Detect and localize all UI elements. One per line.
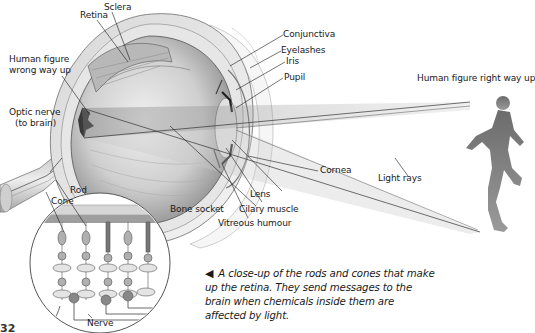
label-lens: Lens (250, 189, 270, 200)
label-bone-socket: Bone socket (170, 204, 224, 215)
label-human-figure-right: Human figure right way up (417, 73, 535, 84)
label-human-figure-wrong-line1: Human figure (9, 54, 69, 65)
label-cone: Cone (51, 196, 74, 207)
label-vitreous-humour: Vitreous humour (218, 218, 291, 229)
label-conjunctiva: Conjunctiva (283, 29, 335, 40)
running-figure (466, 96, 524, 232)
label-optic-nerve-line1: Optic nerve (9, 107, 60, 118)
label-retina: Retina (80, 10, 108, 21)
label-sclera: Sclera (104, 2, 131, 13)
label-optic-nerve-line2: (to brain) (15, 118, 56, 129)
figure-caption: ◀A close-up of the rods and cones that m… (205, 267, 435, 323)
label-human-figure-wrong-line2: wrong way up (9, 65, 71, 76)
label-light-rays: Light rays (378, 173, 422, 184)
label-cornea: Cornea (320, 165, 352, 176)
rods-cones-closeup (30, 193, 170, 333)
label-rod: Rod (70, 185, 87, 196)
label-eyelashes: Eyelashes (281, 45, 325, 56)
label-nerve: Nerve (87, 318, 113, 329)
label-cilary-muscle: Cilary muscle (239, 204, 299, 215)
label-iris: Iris (286, 56, 299, 67)
label-pupil: Pupil (284, 72, 305, 83)
caption-text: A close-up of the rods and cones that ma… (205, 268, 435, 321)
left-arrow-icon: ◀ (205, 267, 213, 280)
page-number: 32 (0, 322, 15, 333)
